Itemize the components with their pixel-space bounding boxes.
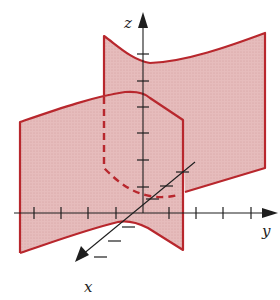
y-axis-label: y	[261, 222, 271, 240]
x-axis-label: x	[84, 278, 93, 296]
y-axis-arrow-icon	[262, 208, 278, 218]
front-surface-sheet	[20, 92, 183, 253]
x-axis-arrow-icon	[75, 246, 89, 262]
z-axis-arrow-icon	[138, 12, 148, 28]
z-axis-label: z	[123, 14, 132, 32]
surface-diagram: z y x	[0, 0, 280, 300]
